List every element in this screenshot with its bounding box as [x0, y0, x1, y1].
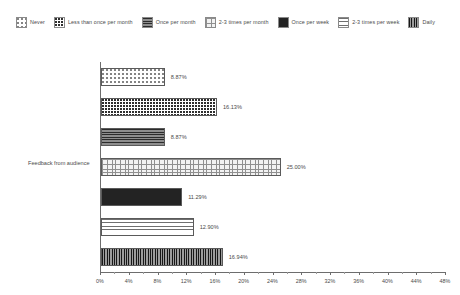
tick-label: 48% [440, 278, 451, 284]
bar-value-label: 16.13% [223, 104, 242, 110]
tick-mark-minor [344, 272, 345, 274]
tick-mark [330, 272, 331, 275]
bar[interactable] [101, 68, 165, 86]
bar-row: 11.29% [101, 188, 446, 206]
tick-label: 0% [96, 278, 104, 284]
light-horizontal-lines-swatch [338, 17, 349, 28]
dark-horizontal-lines-swatch [142, 17, 153, 28]
tick-mark [100, 272, 101, 275]
light-crosshatch-swatch [205, 17, 216, 28]
tick-label: 12% [181, 278, 192, 284]
legend-item-label: Less than once per month [68, 19, 133, 25]
bar-row: 25.00% [101, 158, 446, 176]
tick-mark-minor [172, 272, 173, 274]
tick-mark-minor [258, 272, 259, 274]
tick-mark [445, 272, 446, 275]
sparse-dots-swatch [16, 17, 27, 28]
dark-solid-speckle-swatch [278, 17, 289, 28]
bar-row: 16.13% [101, 98, 446, 116]
tick-mark-minor [143, 272, 144, 274]
tick-mark-minor [114, 272, 115, 274]
legend-item[interactable]: Once per week [278, 17, 330, 28]
legend-item-label: 2-3 times per month [219, 19, 269, 25]
plot-area: 8.87%16.13%8.87%25.00%11.29%12.90%16.94% [100, 62, 446, 272]
legend-item[interactable]: Never [16, 17, 45, 28]
tick-label: 16% [210, 278, 221, 284]
tick-mark-minor [287, 272, 288, 274]
tick-label: 28% [296, 278, 307, 284]
tick-label: 8% [154, 278, 162, 284]
bar-row: 8.87% [101, 128, 446, 146]
bar-row: 8.87% [101, 68, 446, 86]
bar-value-label: 8.87% [171, 134, 187, 140]
bar[interactable] [101, 158, 281, 176]
tick-mark-minor [431, 272, 432, 274]
tick-mark-minor [316, 272, 317, 274]
dark-grid-swatch [408, 17, 419, 28]
tick-mark [416, 272, 417, 275]
bars-container: 8.87%16.13%8.87%25.00%11.29%12.90%16.94% [101, 62, 446, 272]
tick-mark [273, 272, 274, 275]
legend-item[interactable]: Less than once per month [54, 17, 133, 28]
chart-legend: NeverLess than once per monthOnce per mo… [0, 14, 460, 30]
tick-label: 44% [411, 278, 422, 284]
tick-mark-minor [229, 272, 230, 274]
bar-chart: NeverLess than once per monthOnce per mo… [0, 0, 460, 295]
category-label: Feedback from audience [28, 160, 90, 166]
tick-mark-minor [402, 272, 403, 274]
tick-mark [244, 272, 245, 275]
legend-item-label: Once per month [156, 19, 196, 25]
bar[interactable] [101, 98, 217, 116]
legend-item[interactable]: 2-3 times per week [338, 17, 399, 28]
legend-item[interactable]: Daily [408, 17, 434, 28]
tick-mark-minor [373, 272, 374, 274]
bar-value-label: 25.00% [287, 164, 306, 170]
tick-mark [359, 272, 360, 275]
tick-mark-minor [201, 272, 202, 274]
bar-row: 16.94% [101, 248, 446, 266]
legend-item-label: Daily [422, 19, 434, 25]
bar[interactable] [101, 188, 182, 206]
legend-item[interactable]: 2-3 times per month [205, 17, 269, 28]
tick-label: 32% [325, 278, 336, 284]
bar-value-label: 11.29% [188, 194, 207, 200]
bar[interactable] [101, 218, 194, 236]
tick-mark [388, 272, 389, 275]
tick-mark [215, 272, 216, 275]
tick-mark [186, 272, 187, 275]
x-axis-ticks: 0%4%8%12%16%20%24%28%32%36%40%44%48% [100, 272, 446, 294]
bar[interactable] [101, 128, 165, 146]
bar[interactable] [101, 248, 223, 266]
legend-item-label: Once per week [292, 19, 330, 25]
bar-value-label: 8.87% [171, 74, 187, 80]
tick-label: 20% [238, 278, 249, 284]
tick-label: 40% [382, 278, 393, 284]
tick-label: 24% [267, 278, 278, 284]
legend-item-label: 2-3 times per week [352, 19, 399, 25]
legend-item[interactable]: Once per month [142, 17, 196, 28]
bar-row: 12.90% [101, 218, 446, 236]
tick-mark [129, 272, 130, 275]
legend-item-label: Never [30, 19, 45, 25]
bar-value-label: 16.94% [229, 254, 248, 260]
tick-mark [158, 272, 159, 275]
tick-label: 36% [353, 278, 364, 284]
dense-dots-swatch [54, 17, 65, 28]
tick-mark [301, 272, 302, 275]
bar-value-label: 12.90% [200, 224, 219, 230]
tick-label: 4% [125, 278, 133, 284]
